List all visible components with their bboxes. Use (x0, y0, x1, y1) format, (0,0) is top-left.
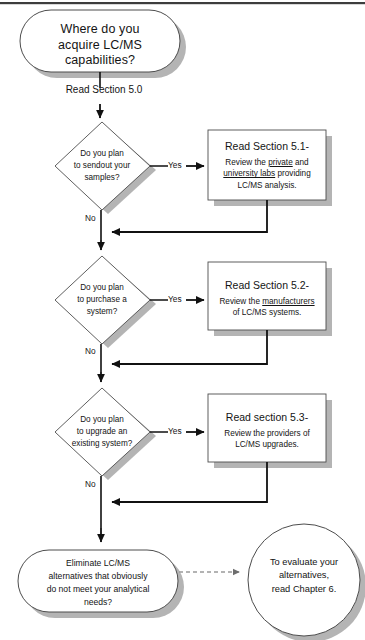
box-section-51-body: Review the private anduniversity labs pr… (208, 157, 326, 191)
decision-upgrade-yes-label: Yes (168, 426, 182, 436)
decision-upgrade-no-label: No (85, 479, 96, 489)
box-51-line2-post: providing (275, 169, 311, 178)
box-section-53-body: Review the providers ofLC/MS upgrades. (208, 428, 326, 451)
page-rule (0, 2, 365, 4)
box-section-53-title: Read section 5.3- (208, 411, 326, 425)
box-51-line1-post: and (293, 158, 309, 167)
box-52-line2-post: of LC/MS systems. (233, 308, 302, 317)
decision-sendout-label: Do you plan to sendout your samples? (52, 148, 152, 184)
box-51-line3: LC/MS analysis. (237, 181, 296, 190)
decision-upgrade-label: Do you plan to upgrade an existing syste… (48, 414, 156, 450)
box-51-line1-pre: Review the (225, 158, 268, 167)
evaluate-circle-label: To evaluate your alternatives, read Chap… (249, 556, 359, 596)
flowchart-canvas: Where do you acquire LC/MS capabilities?… (0, 0, 365, 640)
box-51-line2-underline: university labs (223, 169, 275, 178)
box-51-line1-underline: private (268, 158, 293, 167)
decision-sendout-yes-label: Yes (168, 160, 182, 170)
box-52-line1-pre: Review the (219, 297, 262, 306)
connector-label-read-section-50: Read Section 5.0 (44, 84, 164, 95)
box-section-51-title: Read Section 5.1- (208, 140, 326, 154)
box-section-52-title: Read Section 5.2- (208, 279, 326, 293)
eliminate-terminal-label: Eliminate LC/MS alternatives that obviou… (18, 557, 178, 609)
box-53-line1-pre: Review the providers of (224, 429, 310, 438)
flowchart-graphics (0, 0, 365, 640)
decision-purchase-no-label: No (85, 346, 96, 356)
box-52-line1-underline: manufacturers (262, 297, 314, 306)
decision-sendout-no-label: No (85, 213, 96, 223)
decision-purchase-yes-label: Yes (168, 294, 182, 304)
decision-purchase-label: Do you plan to purchase a system? (52, 282, 152, 318)
box-section-52-body: Review the manufacturersof LC/MS systems… (208, 296, 326, 319)
start-terminal-label: Where do you acquire LC/MS capabilities? (20, 22, 180, 69)
box-53-line2-post: LC/MS upgrades. (235, 440, 299, 449)
